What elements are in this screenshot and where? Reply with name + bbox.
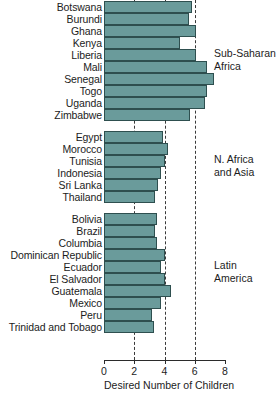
bar-row: Zimbabwe	[0, 109, 276, 121]
bar	[104, 273, 165, 285]
region-label: N. Africa and Asia	[214, 153, 254, 178]
category-label: Brazil	[76, 226, 102, 237]
category-label: Tunisia	[69, 156, 102, 167]
bar-row: Uganda	[0, 97, 276, 109]
bar	[104, 13, 189, 25]
category-label: Dominican Republic	[10, 250, 102, 261]
bar	[104, 37, 180, 49]
bar-row: Ghana	[0, 25, 276, 37]
bar	[104, 61, 207, 73]
bar	[104, 213, 157, 225]
x-tick	[195, 360, 196, 364]
bar	[104, 143, 168, 155]
category-label: Uganda	[66, 98, 102, 109]
bar	[104, 309, 152, 321]
x-tick-label: 4	[162, 365, 168, 377]
bar-row: Guatemala	[0, 285, 276, 297]
category-label: Zimbabwe	[54, 110, 102, 121]
category-label: Morocco	[62, 144, 102, 155]
bar-row: Sri Lanka	[0, 179, 276, 191]
region-label: Latin America	[214, 259, 253, 284]
bar-row: Bolivia	[0, 213, 276, 225]
category-label: Peru	[80, 310, 102, 321]
region-label: Sub-Saharan Africa	[214, 47, 276, 72]
bar	[104, 25, 196, 37]
bar	[104, 179, 158, 191]
category-label: Mali	[83, 62, 102, 73]
bar	[104, 191, 155, 203]
category-label: Kenya	[73, 38, 102, 49]
bar	[104, 85, 207, 97]
bar	[104, 73, 214, 85]
category-label: Sri Lanka	[59, 180, 102, 191]
bar	[104, 261, 161, 273]
category-label: El Salvador	[49, 274, 102, 285]
category-label: Botswana	[57, 2, 102, 13]
x-tick	[225, 360, 226, 364]
category-label: Togo	[80, 86, 102, 97]
bar	[104, 97, 205, 109]
category-label: Burundi	[67, 14, 103, 25]
bar-row: Burundi	[0, 13, 276, 25]
bar-row: Togo	[0, 85, 276, 97]
bar	[104, 297, 161, 309]
category-label: Columbia	[58, 238, 102, 249]
x-tick	[134, 360, 135, 364]
bar-row: Thailand	[0, 191, 276, 203]
x-tick-label: 8	[222, 365, 228, 377]
bar-row: Egypt	[0, 131, 276, 143]
category-label: Mexico	[69, 298, 102, 309]
x-tick-label: 2	[131, 365, 137, 377]
bar-row: Senegal	[0, 73, 276, 85]
bar-row: Mexico	[0, 297, 276, 309]
plot-area: BotswanaBurundiGhanaKenyaLiberiaMaliSene…	[0, 0, 276, 360]
bar-row: Brazil	[0, 225, 276, 237]
category-label: Ghana	[71, 26, 102, 37]
category-label: Guatemala	[52, 286, 102, 297]
category-label: Liberia	[71, 50, 102, 61]
category-label: Senegal	[64, 74, 102, 85]
bar	[104, 237, 157, 249]
bar	[104, 1, 192, 13]
bar	[104, 167, 161, 179]
bar-row: Trinidad and Tobago	[0, 321, 276, 333]
category-label: Ecuador	[64, 262, 102, 273]
x-axis-title: Desired Number of Children	[104, 379, 225, 391]
bar-row: Botswana	[0, 1, 276, 13]
bar	[104, 131, 163, 143]
category-label: Thailand	[63, 192, 102, 203]
bar	[104, 225, 155, 237]
x-tick	[165, 360, 166, 364]
category-label: Trinidad and Tobago	[9, 322, 102, 333]
bar	[104, 285, 171, 297]
bar-row: Peru	[0, 309, 276, 321]
bar	[104, 321, 154, 333]
x-tick-label: 0	[101, 365, 107, 377]
bar	[104, 109, 190, 121]
chart-container: BotswanaBurundiGhanaKenyaLiberiaMaliSene…	[0, 0, 276, 396]
category-label: Egypt	[76, 132, 102, 143]
x-tick-label: 6	[192, 365, 198, 377]
category-label: Indonesia	[57, 168, 102, 179]
bar	[104, 249, 165, 261]
x-tick	[104, 360, 105, 364]
bar	[104, 155, 165, 167]
bar	[104, 49, 196, 61]
category-label: Bolivia	[72, 214, 102, 225]
bar-row: Columbia	[0, 237, 276, 249]
